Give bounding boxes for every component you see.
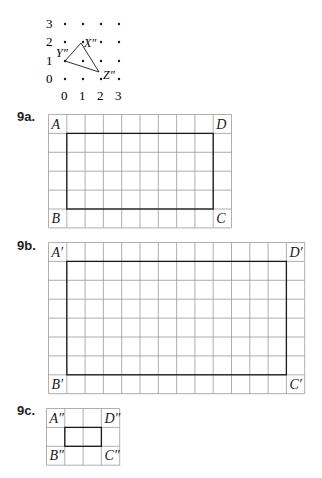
lattice-dot [118, 60, 120, 62]
corner-label-top-right: D [215, 117, 226, 132]
corner-label-bottom-right: C [216, 211, 226, 226]
corner-label-top-right: D′ [288, 245, 303, 260]
lattice-dot [82, 78, 84, 80]
corner-label-top-left: A [51, 117, 61, 132]
lattice-dot [118, 41, 120, 43]
y-label: 1 [46, 53, 53, 68]
grid-lines [49, 115, 232, 228]
lattice-dot [64, 78, 66, 80]
corner-label-top-left: A″ [49, 411, 65, 426]
lattice-dot [100, 60, 102, 62]
corner-label-bottom-right: C′ [289, 377, 302, 392]
lattice-dot [118, 23, 120, 25]
corner-label-top-right: D″ [103, 411, 120, 426]
problem-label-9a: 9a. [17, 109, 35, 124]
corner-label-top-left: A′ [51, 245, 65, 260]
lattice-dot [82, 23, 84, 25]
x-axis-labels: 0 1 2 3 [61, 88, 122, 103]
grid-9b: A′D′B′C′ [48, 242, 306, 395]
y-label: 3 [46, 16, 53, 31]
y-axis-labels: 3 2 1 0 [46, 16, 53, 86]
lattice-dot [100, 78, 102, 80]
lattice-dot [64, 41, 66, 43]
lattice-dot [100, 41, 102, 43]
y-label: 2 [46, 34, 53, 49]
x-label: 3 [115, 88, 122, 103]
x-label: 0 [61, 88, 68, 103]
lattice-dot [82, 60, 84, 62]
lattice-dot [118, 78, 120, 80]
lattice-dot [64, 23, 66, 25]
lattice-dot [100, 23, 102, 25]
vertex-label-y: Y″ [56, 46, 69, 60]
x-label: 1 [79, 88, 86, 103]
grid-9c: A″D″B″C″ [46, 408, 121, 467]
vertex-label-x: X″ [83, 36, 97, 50]
dot-grid-figure: 3 2 1 0 0 1 2 3 X″ Y″ Z″ [0, 0, 160, 105]
problem-label-9c: 9c. [17, 403, 35, 418]
corner-label-bottom-right: C″ [104, 448, 119, 463]
problem-label-9b: 9b. [17, 238, 36, 253]
grid-lines [49, 243, 305, 394]
x-label: 2 [97, 88, 104, 103]
corner-label-bottom-left: B′ [52, 377, 65, 392]
corner-label-bottom-left: B [52, 211, 61, 226]
grid-9a: ADBC [48, 114, 233, 229]
vertex-label-z: Z″ [103, 68, 116, 82]
corner-label-bottom-left: B″ [50, 448, 65, 463]
y-label: 0 [46, 71, 53, 86]
